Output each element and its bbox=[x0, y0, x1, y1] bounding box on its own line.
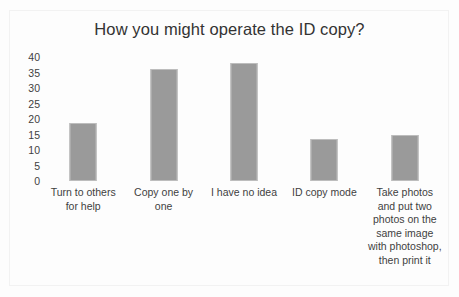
x-axis-label: Copy one by one bbox=[126, 186, 202, 213]
bar-slot bbox=[365, 53, 445, 181]
bar-slot bbox=[123, 53, 203, 181]
y-axis-tick-0: 0 bbox=[14, 176, 40, 186]
y-axis-tick-30: 30 bbox=[14, 83, 40, 93]
bar-chart-figure: How you might operate the ID copy? 40353… bbox=[0, 0, 459, 297]
bar-slot bbox=[284, 53, 364, 181]
bar-slot bbox=[43, 53, 123, 181]
plot-area bbox=[43, 53, 445, 181]
bar-slot bbox=[204, 53, 284, 181]
x-axis-label: Take photos and put two photos on the sa… bbox=[367, 186, 443, 267]
x-axis-labels: Turn to others for helpCopy one by oneI … bbox=[43, 186, 445, 291]
y-axis-tick-15: 15 bbox=[14, 130, 40, 140]
x-axis-label: I have no idea bbox=[206, 186, 282, 200]
bar[interactable] bbox=[311, 139, 338, 181]
y-axis: 4035302520151050 bbox=[14, 48, 40, 188]
chart-title: How you might operate the ID copy? bbox=[0, 20, 459, 39]
y-axis-tick-10: 10 bbox=[14, 145, 40, 155]
y-axis-tick-25: 25 bbox=[14, 99, 40, 109]
bar[interactable] bbox=[150, 69, 177, 181]
y-axis-tick-5: 5 bbox=[14, 161, 40, 171]
bar[interactable] bbox=[391, 135, 418, 181]
y-axis-tick-20: 20 bbox=[14, 114, 40, 124]
bar[interactable] bbox=[230, 63, 257, 181]
bar[interactable] bbox=[70, 123, 97, 181]
x-axis-label: Turn to others for help bbox=[45, 186, 121, 213]
x-axis-label: ID copy mode bbox=[286, 186, 362, 200]
y-axis-tick-40: 40 bbox=[14, 52, 40, 62]
y-axis-tick-35: 35 bbox=[14, 68, 40, 78]
